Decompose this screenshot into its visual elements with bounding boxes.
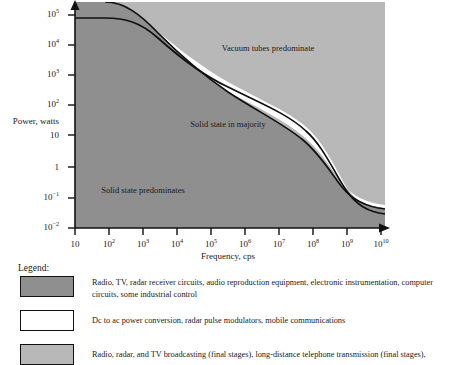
legend-swatch-solid-state-in-majority <box>20 310 74 331</box>
chart-svg <box>0 0 457 258</box>
region-label-vacuum-tubes-predominate: Vacuum tubes predominate <box>222 44 315 53</box>
x-axis-ticks <box>75 228 381 235</box>
y-tick-exp-0: 5 <box>56 8 59 14</box>
x-tick-label-4: 105 <box>205 240 217 249</box>
y-tick-label-0: 105 <box>47 10 59 19</box>
x-tick-exp-1: 2 <box>112 238 115 244</box>
x-tick-exp-5: 6 <box>248 238 251 244</box>
x-tick-exp-9: 10 <box>382 238 388 244</box>
y-tick-exp-1: 4 <box>56 38 59 44</box>
legend-text-1: Dc to ac power conversion, radar pulse m… <box>92 315 454 327</box>
y-tick-exp-3: 2 <box>56 98 59 104</box>
x-tick-exp-7: 8 <box>316 238 319 244</box>
y-axis-title: Power, watts <box>13 117 59 126</box>
x-tick-exp-8: 9 <box>350 238 353 244</box>
y-tick-label-3: 102 <box>47 100 59 109</box>
x-tick-label-0: 10 <box>71 240 80 249</box>
x-tick-exp-2: 3 <box>146 238 149 244</box>
x-tick-exp-6: 7 <box>282 238 285 244</box>
y-axis-labels: 105 104 103 102 10 1 10−1 10−2 Power, wa… <box>0 0 68 232</box>
x-tick-label-3: 104 <box>171 240 183 249</box>
legend-text-0: Radio, TV, radar receiver circuits, audi… <box>92 277 454 301</box>
x-tick-label-2: 103 <box>137 240 149 249</box>
y-tick-label-1: 104 <box>47 40 59 49</box>
y-tick-label-5: 1 <box>55 163 60 172</box>
y-tick-label-4: 10 <box>50 131 59 140</box>
y-tick-exp-7: −2 <box>52 221 59 227</box>
y-tick-exp-2: 3 <box>56 68 59 74</box>
x-tick-label-8: 109 <box>341 240 353 249</box>
y-tick-exp-6: −1 <box>52 191 59 197</box>
x-tick-label-9: 1010 <box>373 240 388 249</box>
legend-title: Legend: <box>18 264 49 274</box>
y-tick-label-6: 10−1 <box>43 193 59 202</box>
x-tick-label-1: 102 <box>103 240 115 249</box>
legend-swatch-vacuum-tubes-predominate <box>20 344 74 365</box>
y-tick-label-7: 10−2 <box>43 223 59 232</box>
x-tick-label-6: 107 <box>273 240 285 249</box>
region-label-solid-state-predominates: Solid state predominates <box>101 186 185 195</box>
y-tick-label-2: 103 <box>47 70 59 79</box>
x-tick-label-5: 106 <box>239 240 251 249</box>
region-label-solid-state-in-majority: Solid state in majority <box>190 120 265 129</box>
x-tick-exp-3: 4 <box>180 238 183 244</box>
legend-text-2: Radio, radar, and TV broadcasting (final… <box>92 349 454 361</box>
legend: Legend: Radio, TV, radar receiver circui… <box>0 258 457 364</box>
x-tick-label-7: 108 <box>307 240 319 249</box>
y-axis-ticks <box>68 15 75 228</box>
legend-swatch-solid-state-predominates <box>20 276 74 297</box>
plot-area: 105 104 103 102 10 1 10−1 10−2 Power, wa… <box>0 0 457 258</box>
x-tick-exp-4: 5 <box>214 238 217 244</box>
